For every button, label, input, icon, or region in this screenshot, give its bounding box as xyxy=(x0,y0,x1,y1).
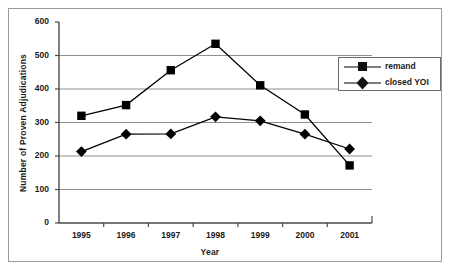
data-series-group xyxy=(76,40,355,170)
y-tick-label: 400 xyxy=(21,83,49,93)
chart-figure: Number of Proven Adjudications Year 0100… xyxy=(0,0,451,277)
data-point-marker xyxy=(210,111,221,122)
data-point-marker xyxy=(165,129,176,140)
legend-label-closed-yoi: closed YOI xyxy=(385,77,429,87)
x-tick-label: 1995 xyxy=(59,230,103,240)
y-tick-label: 500 xyxy=(21,50,49,60)
data-point-marker xyxy=(167,66,175,74)
data-point-marker xyxy=(77,112,85,120)
data-point-marker xyxy=(345,161,353,169)
legend-item-remand[interactable]: remand xyxy=(339,59,440,75)
x-tick-label: 1998 xyxy=(194,230,238,240)
chart-legend[interactable]: remand closed YOI xyxy=(338,57,441,91)
x-tick-label: 2000 xyxy=(283,230,327,240)
data-point-marker xyxy=(255,115,266,126)
y-tick-label: 300 xyxy=(21,117,49,127)
y-tick-label: 600 xyxy=(21,16,49,26)
x-tick-label: 2001 xyxy=(328,230,372,240)
x-tick-marks-group xyxy=(104,216,372,227)
data-point-marker xyxy=(211,40,219,48)
gridlines-group xyxy=(55,22,372,223)
x-tick-label: 1999 xyxy=(238,230,282,240)
data-point-marker xyxy=(122,101,130,109)
legend-label-remand: remand xyxy=(385,61,416,71)
data-point-marker xyxy=(256,81,264,89)
x-tick-label: 1997 xyxy=(149,230,193,240)
legend-item-closed-yoi[interactable]: closed YOI xyxy=(339,75,440,91)
y-tick-label: 100 xyxy=(21,184,49,194)
legend-marker-remand xyxy=(341,59,385,75)
y-tick-label: 0 xyxy=(21,217,49,227)
y-tick-label: 200 xyxy=(21,150,49,160)
data-point-marker xyxy=(121,129,132,140)
x-tick-label: 1996 xyxy=(104,230,148,240)
legend-marker-closed-yoi xyxy=(341,75,385,91)
data-point-marker xyxy=(344,144,355,155)
data-point-marker xyxy=(76,146,87,157)
data-point-marker xyxy=(300,129,311,140)
data-point-marker xyxy=(301,110,309,118)
series-line-remand xyxy=(81,44,349,166)
x-axis-title: Year xyxy=(150,247,270,257)
